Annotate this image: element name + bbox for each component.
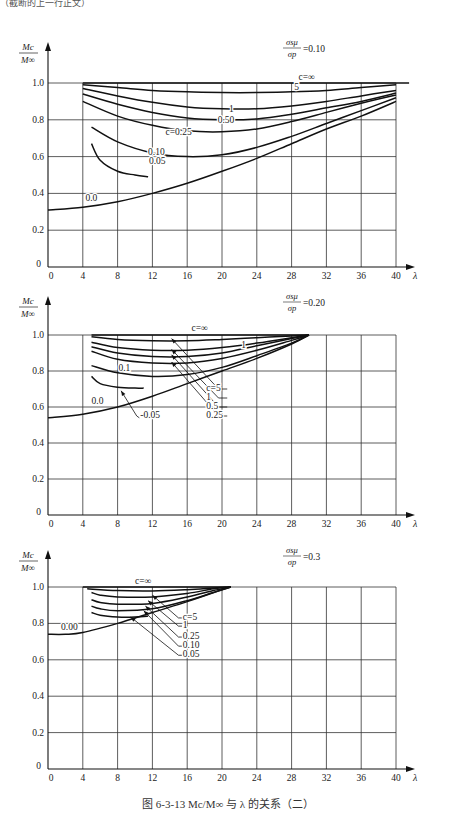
x-tick-label: 32 bbox=[322, 519, 332, 529]
x-tick-label: 0 bbox=[49, 773, 54, 783]
x-tick-label: 40 bbox=[391, 773, 401, 783]
x-tick-label: 40 bbox=[391, 271, 401, 281]
x-tick-label: 40 bbox=[391, 519, 401, 529]
curve-label: 1 bbox=[183, 620, 188, 630]
svg-text:σsμ: σsμ bbox=[286, 291, 298, 301]
x-axis-label: λ bbox=[412, 270, 418, 281]
svg-text:=0.10: =0.10 bbox=[303, 44, 325, 54]
x-tick-label: 24 bbox=[252, 271, 262, 281]
x-tick-label: 28 bbox=[287, 271, 297, 281]
series bbox=[48, 83, 409, 210]
y-tick-label: 0 bbox=[36, 259, 41, 269]
y-axis-arrow-icon bbox=[45, 550, 51, 559]
x-tick-label: 4 bbox=[80, 519, 85, 529]
chart-3: 048121620242832364000.20.40.60.81.0λMcM∞… bbox=[19, 545, 418, 783]
axes bbox=[45, 550, 415, 772]
curve-label: 0.05 bbox=[183, 649, 200, 659]
y-tick-label: 0.4 bbox=[32, 438, 44, 448]
curve-label: c=∞ bbox=[299, 72, 316, 82]
svg-text:Mc: Mc bbox=[21, 42, 34, 52]
svg-text:Mc: Mc bbox=[21, 550, 34, 560]
x-tick-label: 20 bbox=[217, 773, 227, 783]
curve-label: c=∞ bbox=[135, 576, 152, 586]
curve-label: 0.0 bbox=[85, 193, 97, 203]
x-tick-label: 24 bbox=[252, 773, 262, 783]
figure-caption: 图 6-3-13 Mc/M∞ 与 λ 的关系（二） bbox=[0, 795, 456, 811]
svg-text:M∞: M∞ bbox=[20, 563, 35, 573]
curve-label: 0.1 bbox=[118, 363, 130, 373]
curve-label: c=∞ bbox=[192, 323, 209, 333]
curve-label: c=0.25 bbox=[165, 127, 191, 137]
y-tick-label: 0 bbox=[36, 507, 41, 517]
curve-label: 5 bbox=[294, 82, 299, 92]
x-tick-label: 28 bbox=[287, 519, 297, 529]
y-axis-label: McM∞ bbox=[19, 42, 38, 65]
chart-1: 048121620242832364000.20.40.60.81.0λMcM∞… bbox=[19, 37, 418, 281]
svg-text:σsμ: σsμ bbox=[286, 37, 298, 47]
x-tick-label: 12 bbox=[148, 271, 158, 281]
y-axis-arrow-icon bbox=[45, 296, 51, 305]
y-tick-label: 0.2 bbox=[32, 728, 44, 738]
axes bbox=[45, 42, 415, 270]
x-tick-label: 12 bbox=[148, 519, 158, 529]
curve-label: 1 bbox=[229, 104, 234, 114]
y-tick-label: 0.6 bbox=[32, 152, 44, 162]
x-tick-label: 36 bbox=[356, 271, 366, 281]
svg-text:=0.20: =0.20 bbox=[303, 298, 325, 308]
curve-c0.25 bbox=[83, 95, 396, 132]
y-tick-label: 0.6 bbox=[32, 402, 44, 412]
x-tick-label: 8 bbox=[115, 519, 120, 529]
curve-label: 0.0 bbox=[92, 396, 104, 406]
svg-text:σp: σp bbox=[288, 49, 296, 59]
figure-charts: 048121620242832364000.20.40.60.81.0λMcM∞… bbox=[0, 0, 456, 833]
x-tick-label: 4 bbox=[80, 773, 85, 783]
arrowhead-icon bbox=[121, 391, 125, 396]
x-tick-label: 8 bbox=[115, 773, 120, 783]
x-tick-label: 0 bbox=[49, 271, 54, 281]
curve-0.5 bbox=[92, 335, 310, 357]
curve-label: 0.05 bbox=[149, 156, 166, 166]
svg-text:σp: σp bbox=[288, 303, 296, 313]
svg-text:M∞: M∞ bbox=[20, 55, 35, 65]
y-tick-label: 0.8 bbox=[32, 618, 44, 628]
y-tick-label: 0.6 bbox=[32, 655, 44, 665]
x-tick-label: 20 bbox=[217, 519, 227, 529]
x-tick-label: 4 bbox=[80, 271, 85, 281]
x-tick-label: 36 bbox=[356, 773, 366, 783]
y-tick-label: 0.2 bbox=[32, 474, 44, 484]
parameter-annotation: σsμσp=0.3 bbox=[283, 545, 320, 567]
curve-label: 0.25 bbox=[206, 410, 223, 420]
y-tick-label: 0.4 bbox=[32, 188, 44, 198]
y-tick-label: 0.4 bbox=[32, 691, 44, 701]
x-tick-label: 32 bbox=[322, 271, 332, 281]
y-tick-label: 1.0 bbox=[32, 582, 44, 592]
parameter-annotation: σsμσp=0.20 bbox=[283, 291, 325, 313]
grid bbox=[48, 335, 396, 515]
series bbox=[48, 335, 309, 418]
x-tick-label: 28 bbox=[287, 773, 297, 783]
curve-label: 0.00 bbox=[61, 622, 78, 632]
curve-0.05 bbox=[92, 144, 149, 177]
y-axis-label: McM∞ bbox=[19, 296, 38, 319]
grid bbox=[48, 83, 396, 267]
x-tick-label: 24 bbox=[252, 519, 262, 529]
svg-text:M∞: M∞ bbox=[20, 309, 35, 319]
x-tick-label: 32 bbox=[322, 773, 332, 783]
curve-label: 0.50 bbox=[218, 115, 235, 125]
curve-label: 1 bbox=[241, 340, 246, 350]
curve-label: -0.05 bbox=[140, 410, 160, 420]
x-tick-label: 36 bbox=[356, 519, 366, 529]
x-axis-label: λ bbox=[412, 772, 418, 783]
svg-text:σp: σp bbox=[288, 557, 296, 567]
y-axis-label: McM∞ bbox=[19, 550, 38, 573]
x-tick-label: 16 bbox=[182, 519, 192, 529]
x-tick-label: 16 bbox=[182, 271, 192, 281]
svg-text:σsμ: σsμ bbox=[286, 545, 298, 555]
x-tick-label: 0 bbox=[49, 519, 54, 529]
tick-labels: 048121620242832364000.20.40.60.81.0 bbox=[32, 582, 401, 783]
y-tick-label: 0.8 bbox=[32, 115, 44, 125]
x-tick-label: 20 bbox=[217, 271, 227, 281]
curve-5 bbox=[83, 85, 396, 93]
chart-2: 048121620242832364000.20.40.60.81.0λMcM∞… bbox=[19, 291, 418, 529]
y-tick-label: 1.0 bbox=[32, 330, 44, 340]
